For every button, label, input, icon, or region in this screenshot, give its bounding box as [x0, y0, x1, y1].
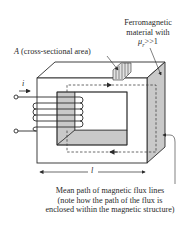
material-label-line2: material with [112, 28, 184, 38]
area-label: A (cross-sectional area) [14, 47, 91, 57]
length-label: l [91, 166, 93, 176]
material-label-line1: Ferromagnetic [112, 18, 184, 28]
core-top-face [37, 62, 165, 78]
terminal-bottom [14, 129, 18, 133]
material-label-line3: μr>>1 [112, 37, 184, 50]
mean-path-caption: Mean path of magnetic flux lines (note h… [30, 186, 190, 215]
caption-line1: Mean path of magnetic flux lines [30, 186, 190, 196]
core-right-face [147, 62, 165, 163]
current-label: i [22, 79, 24, 89]
material-label: Ferromagnetic material with μr>>1 [112, 18, 184, 50]
caption-line2: (note how the path of the flux is [30, 196, 190, 206]
caption-line3: enclosed within the magnetic structure) [30, 205, 190, 215]
terminal-top [14, 95, 18, 99]
